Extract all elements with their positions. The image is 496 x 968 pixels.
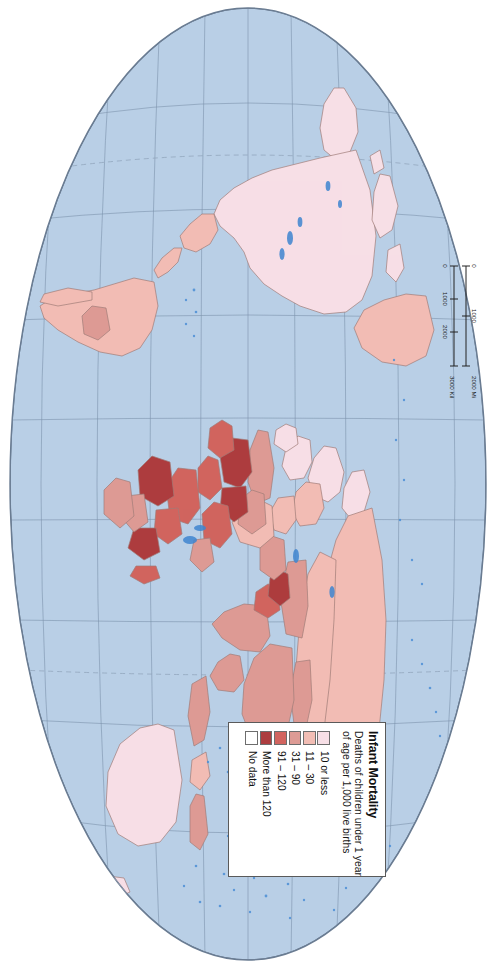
legend-swatch-31-90 — [288, 731, 301, 745]
map-canvas: .c1{fill:#f7dfe6;} .c2{fill:#f2bdb4;} .c… — [0, 0, 496, 968]
scale-km-tick-2000: 2000 — [442, 325, 449, 339]
legend-class-list: 10 or less 11 – 30 31 – 90 91 – 120 More… — [244, 731, 330, 869]
legend-class-item: 10 or less — [316, 731, 330, 869]
scale-miles-tick-1000: 1000 — [471, 309, 478, 323]
legend-class-item: 31 – 90 — [287, 731, 301, 869]
scale-km-unit: 3000 Kilometers — [449, 376, 456, 398]
legend-subtitle-line-2: of age per 1,000 live births — [339, 731, 351, 869]
scale-miles-tick-0: 0 — [471, 264, 478, 268]
scale-bar-content: 0 1000 2000 Miles 0 1000 2000 3000 Kilom… — [442, 258, 482, 398]
legend-label-31-90: 31 – 90 — [289, 751, 299, 785]
legend-label-no-data: No data — [246, 751, 256, 787]
scale-km-tick-1000: 1000 — [442, 292, 449, 306]
legend-class-item: More than 120 — [258, 731, 272, 869]
scale-km-tick-0: 0 — [442, 264, 449, 268]
legend-class-item: No data — [244, 731, 258, 869]
legend-swatch-10-or-less — [317, 731, 330, 745]
scale-bar-svg: 0 1000 2000 Miles 0 1000 2000 3000 Kilom… — [442, 258, 482, 398]
legend-title: Infant Mortality — [365, 731, 378, 869]
legend-swatch-no-data — [245, 731, 258, 745]
legend-content: Infant Mortality Deaths of children unde… — [228, 722, 386, 877]
legend-class-item: 11 – 30 — [302, 731, 316, 869]
legend-label-10-or-less: 10 or less — [318, 751, 328, 795]
legend-label-91-120: 91 – 120 — [275, 751, 285, 791]
legend-label-more-than-120: More than 120 — [261, 751, 271, 817]
legend-subtitle-line-1: Deaths of children under 1 year — [351, 731, 363, 869]
legend-swatch-11-30 — [302, 731, 315, 745]
legend-box: Infant Mortality Deaths of children unde… — [228, 722, 386, 877]
scale-bar: 0 1000 2000 Miles 0 1000 2000 3000 Kilom… — [442, 258, 482, 398]
scale-miles-unit: 2000 Miles — [471, 376, 478, 398]
legend-class-item: 91 – 120 — [273, 731, 287, 869]
legend-subtitle: Deaths of children under 1 year of age p… — [339, 731, 363, 869]
legend-swatch-more-than-120 — [259, 731, 272, 745]
legend-swatch-91-120 — [274, 731, 287, 745]
legend-label-11-30: 11 – 30 — [304, 751, 314, 784]
